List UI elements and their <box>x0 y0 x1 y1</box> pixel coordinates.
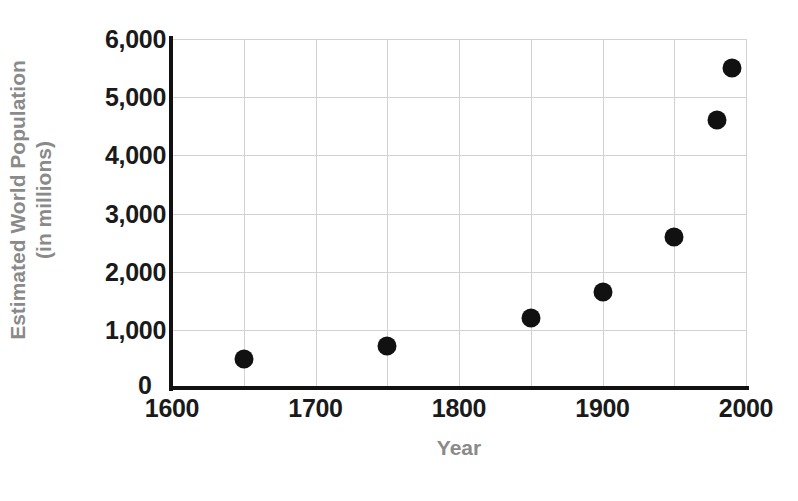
y-axis-title: Estimated World Population (in millions) <box>0 0 62 400</box>
x-axis-tick-label: 2000 <box>719 394 773 423</box>
data-point <box>708 111 727 130</box>
x-axis-tick-label: 1900 <box>575 394 629 423</box>
gridline-horizontal <box>172 155 746 156</box>
gridline-horizontal <box>172 97 746 98</box>
y-axis-title-text: Estimated World Population (in millions) <box>5 60 57 340</box>
y-axis-tick-label: 1,000 <box>62 315 166 344</box>
x-axis-tick-label: 1700 <box>288 394 342 423</box>
x-axis-tick-labels: 16001700180019002000 <box>0 394 798 434</box>
gridline-horizontal <box>172 330 746 331</box>
gridline-horizontal <box>172 214 746 215</box>
data-point <box>593 283 612 302</box>
gridline-horizontal <box>172 272 746 273</box>
scatter-chart-figure: Estimated World Population (in millions)… <box>0 0 798 501</box>
x-axis-tick-label: 1600 <box>145 394 199 423</box>
y-axis-tick-label: 6,000 <box>62 25 166 54</box>
data-point <box>665 227 684 246</box>
plot-area <box>172 39 746 388</box>
y-axis-title-line2: (in millions) <box>31 60 57 340</box>
y-axis-title-line1: Estimated World Population <box>6 60 29 340</box>
gridline-vertical <box>746 39 747 388</box>
x-axis-title: Year <box>172 436 746 460</box>
y-axis-tick-label: 3,000 <box>62 199 166 228</box>
data-point <box>521 309 540 328</box>
data-point <box>234 349 253 368</box>
y-axis-tick-label: 2,000 <box>62 257 166 286</box>
x-axis-line <box>169 386 749 390</box>
y-axis-tick-label: 4,000 <box>62 141 166 170</box>
gridline-horizontal <box>172 39 746 40</box>
data-point <box>722 59 741 78</box>
x-axis-tick-label: 1800 <box>432 394 486 423</box>
y-axis-line <box>169 36 173 391</box>
data-point <box>378 336 397 355</box>
y-axis-tick-label: 5,000 <box>62 83 166 112</box>
